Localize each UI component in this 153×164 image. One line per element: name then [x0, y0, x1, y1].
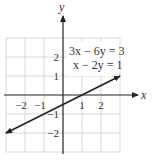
x-axis-label: x — [140, 88, 147, 102]
y-axis-label: y — [58, 0, 65, 14]
y-tick-label: −2 — [47, 127, 59, 139]
x-tick-label: −1 — [34, 99, 46, 111]
equation-2: x − 2y = 1 — [73, 58, 123, 72]
equation-1: 3x − 6y = 3 — [69, 44, 125, 58]
y-tick-label: 1 — [54, 70, 60, 82]
graph: −2−11221−1−2 3x − 6y = 3 x − 2y = 1 y x — [0, 0, 153, 164]
y-tick-label: −1 — [47, 108, 59, 120]
y-tick-label: 2 — [54, 51, 60, 63]
x-tick-label: −2 — [15, 99, 27, 111]
x-tick-label: 2 — [98, 99, 104, 111]
x-tick-label: 1 — [79, 99, 85, 111]
